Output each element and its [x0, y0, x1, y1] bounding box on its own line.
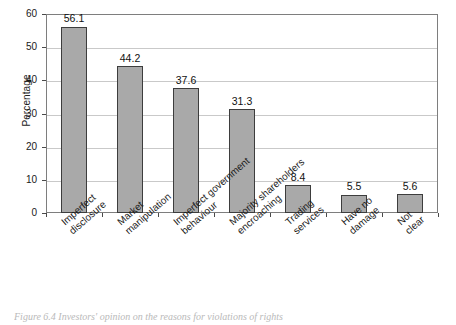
x-axis-tick-mark	[326, 213, 327, 217]
y-axis-tick-label: 20	[11, 142, 37, 152]
bar-value-label: 44.2	[120, 53, 140, 64]
x-axis-tick-mark	[214, 213, 215, 217]
y-axis-tick-label: 40	[11, 75, 37, 85]
bar[interactable]	[229, 109, 256, 213]
bar-slot: 5.5	[326, 14, 382, 213]
figure-container: Percentage 0102030405060 56.144.237.631.…	[0, 0, 456, 325]
bar-value-label: 37.6	[176, 75, 196, 86]
bar-slot: 56.1	[46, 14, 102, 213]
x-axis-tick-mark	[46, 213, 47, 217]
bar[interactable]	[341, 195, 368, 213]
y-axis-tick-label: 0	[11, 208, 37, 218]
bar[interactable]	[397, 194, 424, 213]
bar-slot: 44.2	[102, 14, 158, 213]
bar-value-label: 56.1	[64, 13, 84, 24]
y-axis-tick-label: 60	[11, 9, 37, 19]
bar[interactable]	[173, 88, 200, 213]
bar[interactable]	[285, 185, 312, 213]
bar-value-label: 5.5	[347, 181, 362, 192]
bar-slot: 37.6	[158, 14, 214, 213]
figure-caption: Figure 6.4 Investors' opinion on the rea…	[14, 311, 446, 323]
y-axis-tick-label: 10	[11, 175, 37, 185]
x-axis-tick-mark	[382, 213, 383, 217]
x-axis-tick-mark	[438, 213, 439, 217]
x-axis-tick-mark	[158, 213, 159, 217]
x-axis-label-line: clear	[403, 213, 427, 236]
bar[interactable]	[61, 27, 88, 213]
bar-series: 56.144.237.631.38.45.55.6	[46, 14, 438, 213]
x-axis-tick-mark	[270, 213, 271, 217]
bar-value-label: 31.3	[232, 96, 252, 107]
x-axis-tick-mark	[102, 213, 103, 217]
y-axis-tick-label: 50	[11, 42, 37, 52]
bar-slot: 8.4	[270, 14, 326, 213]
bar-slot: 31.3	[214, 14, 270, 213]
bar[interactable]	[117, 66, 144, 213]
bar-value-label: 8.4	[291, 172, 306, 183]
y-axis-tick-label: 30	[11, 109, 37, 119]
bar-slot: 5.6	[382, 14, 438, 213]
bar-value-label: 5.6	[403, 181, 418, 192]
